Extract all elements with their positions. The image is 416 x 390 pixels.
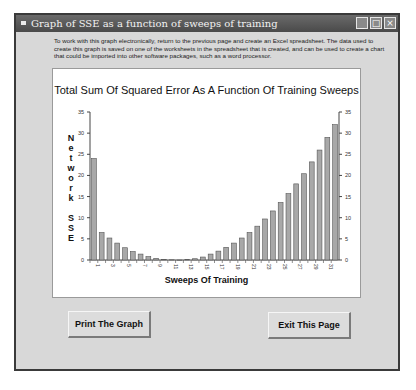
bar	[224, 247, 229, 260]
title-bar[interactable]: Graph of SSE as a function of sweeps of …	[16, 15, 398, 32]
svg-text:31: 31	[328, 264, 334, 270]
window-title: Graph of SSE as a function of sweeps of …	[31, 15, 278, 32]
bar	[130, 252, 135, 260]
svg-text:7: 7	[142, 264, 148, 267]
svg-text:20: 20	[345, 172, 351, 178]
bar	[333, 125, 338, 260]
bar	[154, 258, 159, 260]
bar	[278, 202, 283, 260]
close-button[interactable]: ×	[384, 17, 396, 29]
chart-panel: Total Sum Of Squared Error As A Function…	[52, 68, 361, 298]
minimize-button[interactable]: _	[356, 17, 368, 29]
svg-text:0: 0	[345, 257, 348, 263]
svg-text:0: 0	[81, 257, 84, 263]
bar	[270, 211, 275, 260]
maximize-button[interactable]: □	[370, 17, 382, 29]
intro-text: To work with this graph electronically, …	[54, 37, 389, 60]
exit-page-button[interactable]: Exit This Page	[268, 312, 351, 339]
svg-text:29: 29	[313, 264, 319, 270]
svg-text:25: 25	[282, 264, 288, 270]
svg-text:15: 15	[345, 194, 351, 200]
svg-text:35: 35	[78, 109, 84, 115]
svg-text:10: 10	[345, 215, 351, 221]
bar	[317, 150, 322, 260]
svg-text:9: 9	[157, 264, 163, 267]
svg-text:17: 17	[219, 264, 225, 270]
x-axis-label: Sweeps Of Training	[53, 275, 360, 285]
svg-text:30: 30	[78, 130, 84, 136]
bar	[193, 259, 198, 260]
bar	[107, 238, 112, 260]
bar	[263, 219, 268, 260]
bar	[247, 233, 252, 260]
svg-text:1: 1	[95, 264, 101, 267]
svg-text:15: 15	[78, 194, 84, 200]
bar-chart: 0055101015152020252530303535135791113151…	[53, 69, 362, 299]
bar	[232, 243, 237, 260]
bar	[138, 254, 143, 260]
print-graph-button[interactable]: Print The Graph	[68, 311, 151, 338]
bar	[123, 248, 128, 260]
svg-text:23: 23	[266, 264, 272, 270]
svg-text:5: 5	[81, 236, 84, 242]
svg-text:19: 19	[235, 264, 241, 270]
svg-text:27: 27	[297, 264, 303, 270]
svg-text:25: 25	[345, 151, 351, 157]
svg-text:10: 10	[78, 215, 84, 221]
bar	[239, 238, 244, 260]
bar	[302, 174, 307, 260]
bar	[216, 251, 221, 260]
svg-text:21: 21	[251, 264, 257, 270]
svg-text:13: 13	[188, 264, 194, 270]
bar	[115, 243, 120, 260]
svg-text:30: 30	[345, 130, 351, 136]
bar	[309, 162, 314, 260]
bar	[200, 257, 205, 260]
svg-text:20: 20	[78, 172, 84, 178]
app-window: Graph of SSE as a function of sweeps of …	[14, 13, 400, 371]
bar	[162, 259, 167, 260]
svg-text:3: 3	[110, 264, 116, 267]
bar	[286, 194, 291, 260]
svg-text:5: 5	[126, 264, 132, 267]
svg-text:25: 25	[78, 151, 84, 157]
bar	[208, 254, 213, 260]
bar	[91, 159, 96, 260]
svg-text:15: 15	[204, 264, 210, 270]
bar	[146, 257, 151, 260]
bar	[325, 137, 330, 260]
bar	[255, 226, 260, 260]
bar	[294, 184, 299, 260]
bar	[99, 233, 104, 260]
svg-text:5: 5	[345, 236, 348, 242]
app-icon	[21, 21, 26, 25]
svg-text:35: 35	[345, 109, 351, 115]
svg-text:11: 11	[173, 264, 179, 269]
